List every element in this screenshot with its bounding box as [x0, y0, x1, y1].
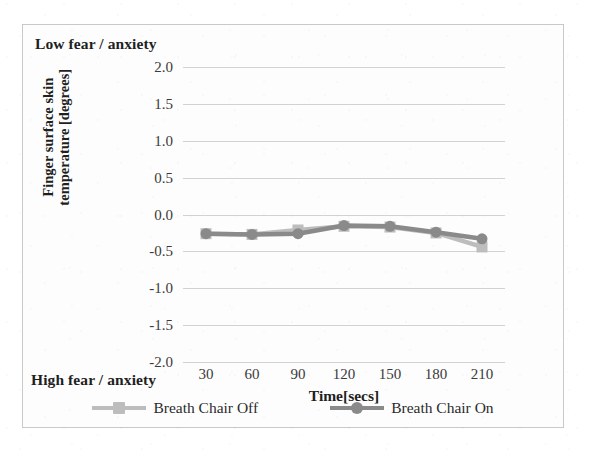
legend-label: Breath Chair On [391, 399, 493, 417]
x-axis-tick-label: 90 [291, 366, 306, 383]
y-axis-tick-label: -1.5 [149, 317, 173, 334]
data-point-marker [477, 233, 488, 244]
y-axis-tick-label: -1.0 [149, 280, 173, 297]
y-axis-tick-label: 1.0 [154, 132, 173, 149]
legend-item[interactable]: Breath Chair On [330, 399, 493, 417]
data-point-marker [293, 228, 304, 239]
legend-label: Breath Chair Off [153, 399, 258, 417]
y-axis-title-line-2: temperature [degrees] [56, 12, 72, 262]
y-axis-tick-label: 2.0 [154, 59, 173, 76]
x-axis-tick-label: 30 [199, 366, 214, 383]
legend-swatch [330, 401, 384, 415]
chart-frame: Low fear / anxiety High fear / anxiety F… [22, 24, 564, 428]
series-circle [201, 220, 488, 244]
data-point-marker [385, 221, 396, 232]
data-point-marker [431, 227, 442, 238]
y-axis-title: Finger surface skin temperature [degrees… [40, 12, 72, 262]
series-layer [183, 67, 505, 362]
plot-area: 2.01.51.00.50.0-0.5-1.0-1.5-2.0 [183, 67, 505, 362]
data-point-marker [339, 220, 350, 231]
legend-marker-square [113, 402, 125, 414]
x-axis-tick-label: 180 [425, 366, 448, 383]
x-axis-tick-labels: 306090120150180210 [183, 366, 505, 388]
y-axis-tick-label: 1.5 [154, 95, 173, 112]
x-axis-tick-label: 150 [379, 366, 402, 383]
data-point-marker [201, 228, 212, 239]
legend-marker-circle [351, 402, 363, 414]
gridline [183, 362, 505, 363]
chart-legend: Breath Chair OffBreath Chair On [23, 391, 563, 425]
y-axis-tick-label: -0.5 [149, 243, 173, 260]
y-axis-tick-label: -2.0 [149, 354, 173, 371]
y-axis-tick-label: 0.5 [154, 169, 173, 186]
y-axis-tick-label: 0.0 [154, 206, 173, 223]
x-axis-tick-label: 210 [471, 366, 494, 383]
data-point-marker [247, 229, 258, 240]
y-axis-title-line-1: Finger surface skin [40, 12, 56, 262]
legend-swatch [92, 401, 146, 415]
x-axis-tick-label: 120 [333, 366, 356, 383]
annotation-high-fear: High fear / anxiety [31, 371, 156, 389]
legend-item[interactable]: Breath Chair Off [92, 399, 258, 417]
x-axis-tick-label: 60 [245, 366, 260, 383]
